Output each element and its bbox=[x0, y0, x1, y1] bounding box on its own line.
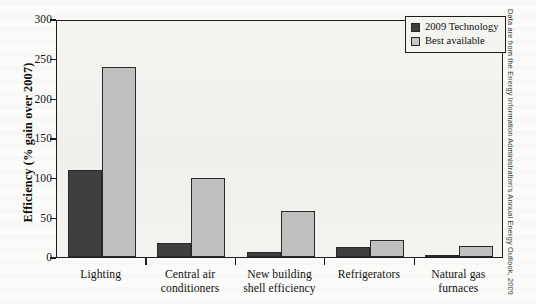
x-tick-mark bbox=[145, 258, 146, 265]
bar-3-series-0 bbox=[336, 247, 370, 257]
x-category-line: Refrigerators bbox=[324, 268, 413, 282]
x-category-line: conditioners bbox=[145, 282, 234, 296]
legend-item: Best available bbox=[411, 34, 499, 48]
bar-2-series-0 bbox=[247, 252, 281, 257]
x-category-label-0: Lighting bbox=[56, 268, 145, 282]
x-category-label-2: New buildingshell efficiency bbox=[235, 268, 324, 295]
x-category-line: Central air bbox=[145, 268, 234, 282]
x-tick-mark bbox=[235, 258, 236, 265]
legend-item: 2009 Technology bbox=[411, 20, 499, 34]
bar-0-series-0 bbox=[68, 170, 102, 257]
bar-series-container bbox=[57, 21, 502, 257]
bar-4-series-1 bbox=[459, 246, 493, 257]
bar-2-series-1 bbox=[281, 211, 315, 257]
x-category-label-4: Natural gasfurnaces bbox=[414, 268, 503, 295]
x-category-line: shell efficiency bbox=[235, 282, 324, 296]
x-category-line: furnaces bbox=[414, 282, 503, 296]
legend-label-best-available: Best available bbox=[425, 36, 485, 47]
legend-label-2009-technology: 2009 Technology bbox=[425, 22, 499, 33]
bar-chart-figure: Efficiency (% gain over 2007) 0501001502… bbox=[0, 0, 536, 304]
x-category-line: Lighting bbox=[56, 268, 145, 282]
plot-area bbox=[56, 20, 503, 258]
bar-3-series-1 bbox=[370, 240, 404, 257]
bar-1-series-1 bbox=[191, 178, 225, 257]
x-category-label-3: Refrigerators bbox=[324, 268, 413, 282]
y-axis-title: Efficiency (% gain over 2007) bbox=[21, 23, 36, 263]
bar-4-series-0 bbox=[425, 255, 459, 257]
x-category-line: New building bbox=[235, 268, 324, 282]
x-category-line: Natural gas bbox=[414, 268, 503, 282]
y-axis: Efficiency (% gain over 2007) 0501001502… bbox=[0, 0, 56, 304]
legend-swatch-2009-technology bbox=[411, 23, 420, 32]
legend-swatch-best-available bbox=[411, 37, 420, 46]
bar-0-series-1 bbox=[102, 67, 136, 257]
x-tick-mark bbox=[324, 258, 325, 265]
x-tick-mark bbox=[414, 258, 415, 265]
x-axis: LightingCentral airconditionersNew build… bbox=[56, 258, 503, 304]
x-category-label-1: Central airconditioners bbox=[145, 268, 234, 295]
source-note: Data are from the Energy Information Adm… bbox=[506, 2, 515, 302]
chart-legend: 2009 Technology Best available bbox=[405, 16, 506, 53]
bar-1-series-0 bbox=[157, 243, 191, 257]
